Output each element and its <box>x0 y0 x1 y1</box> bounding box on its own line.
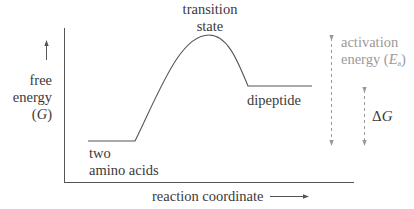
delta-g-label: ΔG <box>372 108 393 125</box>
y-axis-label: free energy (G) <box>0 72 52 123</box>
activation-energy-label: activation energy (Ea) <box>341 34 406 72</box>
activation-energy-line2: energy (Ea) <box>341 51 406 72</box>
y-axis-label-line1: free <box>0 72 52 89</box>
x-axis-label: reaction coordinate <box>152 188 264 205</box>
reactants-label: two amino acids <box>89 145 159 179</box>
product-label: dipeptide <box>247 92 301 109</box>
y-axis-label-line3: (G) <box>0 106 52 123</box>
transition-state-line1: transition <box>176 1 244 18</box>
reactants-line2: amino acids <box>89 162 159 179</box>
transition-state-line2: state <box>176 18 244 35</box>
y-axis-label-line2: energy <box>0 89 52 106</box>
reactants-line1: two <box>89 145 159 162</box>
energy-curve <box>88 35 312 141</box>
activation-energy-line1: activation <box>341 34 406 51</box>
transition-state-label: transition state <box>176 1 244 35</box>
